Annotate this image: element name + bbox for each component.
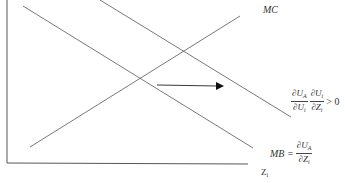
x-axis-label: Zi <box>261 167 268 178</box>
mc-curve <box>30 16 240 147</box>
shifted-term2: ∂Ui ∂Zi <box>310 88 325 115</box>
shift-arrow-head <box>216 82 224 90</box>
x-axis <box>7 163 248 164</box>
mb-curve <box>23 6 253 148</box>
shifted-mb-curve <box>100 0 291 117</box>
shifted-term1: ∂UA ∂Ui <box>291 88 308 115</box>
mc-label: MC <box>263 4 278 15</box>
shifted-curve-label: ∂UA ∂Ui ∂Ui ∂Zi > 0 <box>291 88 339 115</box>
mb-label: MB = ∂UA ∂Zi <box>270 140 312 167</box>
shift-arrow-shaft <box>157 85 218 86</box>
